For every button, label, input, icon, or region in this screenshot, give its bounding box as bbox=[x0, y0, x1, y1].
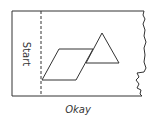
paper-strip-diagram: Start Okay bbox=[0, 0, 149, 123]
start-label: Start bbox=[21, 42, 32, 67]
caption-label: Okay bbox=[65, 104, 92, 115]
